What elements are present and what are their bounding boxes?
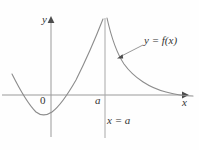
y-axis — [48, 16, 55, 137]
asymptote-label: x = a — [107, 115, 130, 126]
leader-arrowhead — [117, 54, 123, 58]
curve-left-branch — [12, 19, 103, 115]
y-axis-label: y — [42, 14, 47, 25]
leader-line — [120, 45, 144, 57]
graph-canvas — [0, 0, 199, 150]
y-axis-arrowhead — [48, 16, 55, 23]
function-label: y = f(x) — [144, 35, 177, 46]
origin-label: 0 — [40, 95, 46, 106]
a-tick-label: a — [95, 95, 101, 106]
function-graph-figure: y x 0 a x = a y = f(x) — [0, 0, 199, 150]
function-label-leader — [117, 45, 143, 59]
x-axis-label: x — [182, 97, 187, 108]
